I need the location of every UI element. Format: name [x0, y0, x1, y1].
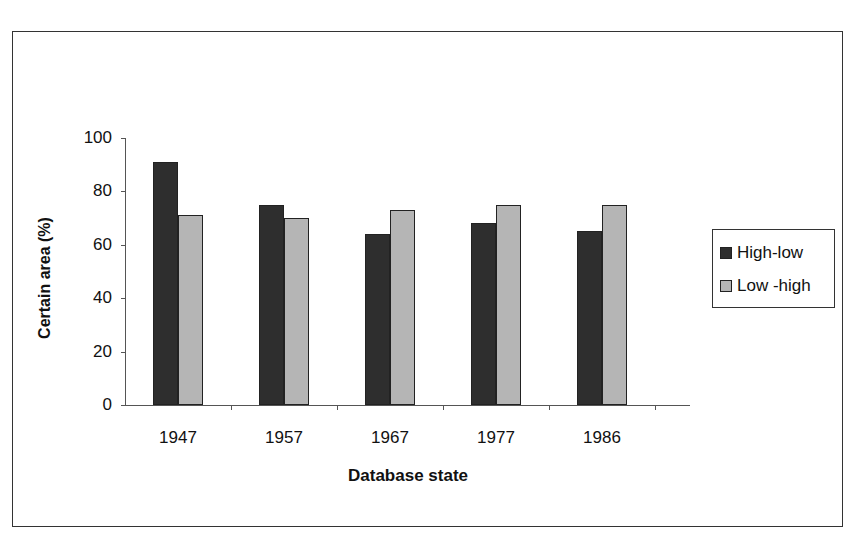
bar-low-high-1986	[602, 205, 627, 405]
y-tick-label: 40	[72, 288, 112, 308]
y-axis-title: Certain area (%)	[36, 217, 54, 339]
x-tick-label: 1957	[244, 428, 324, 448]
y-axis-line	[125, 138, 126, 405]
y-tick	[121, 298, 126, 299]
x-tick	[549, 405, 550, 410]
legend-item-low-high: Low -high	[720, 276, 811, 296]
x-tick	[337, 405, 338, 410]
y-tick	[121, 352, 126, 353]
x-axis-line	[125, 405, 690, 406]
x-tick-label: 1947	[138, 428, 218, 448]
bar-high-low-1986	[577, 231, 602, 405]
bar-high-low-1977	[471, 223, 496, 405]
legend-swatch-dark	[720, 247, 732, 259]
bar-low-high-1957	[284, 218, 309, 405]
legend-label: High-low	[737, 243, 803, 263]
bar-low-high-1977	[496, 205, 521, 405]
y-tick	[121, 191, 126, 192]
y-tick-label: 0	[72, 395, 112, 415]
y-tick-label: 60	[72, 235, 112, 255]
y-tick-label: 20	[72, 342, 112, 362]
bar-high-low-1957	[259, 205, 284, 405]
x-axis-title: Database state	[348, 466, 468, 486]
x-tick-label: 1977	[456, 428, 536, 448]
y-tick-label: 80	[72, 181, 112, 201]
y-tick	[121, 245, 126, 246]
x-tick-label: 1986	[562, 428, 642, 448]
bar-low-high-1967	[390, 210, 415, 405]
y-tick-label: 100	[72, 128, 112, 148]
legend-item-high-low: High-low	[720, 243, 803, 263]
legend-label: Low -high	[737, 276, 811, 296]
bar-high-low-1947	[153, 162, 178, 405]
x-tick-label: 1967	[350, 428, 430, 448]
legend: High-low Low -high	[712, 229, 835, 308]
y-tick	[121, 405, 126, 406]
bar-low-high-1947	[178, 215, 203, 405]
legend-swatch-light	[720, 280, 732, 292]
bar-high-low-1967	[365, 234, 390, 405]
x-tick	[655, 405, 656, 410]
x-tick	[231, 405, 232, 410]
x-tick	[443, 405, 444, 410]
y-tick	[121, 138, 126, 139]
